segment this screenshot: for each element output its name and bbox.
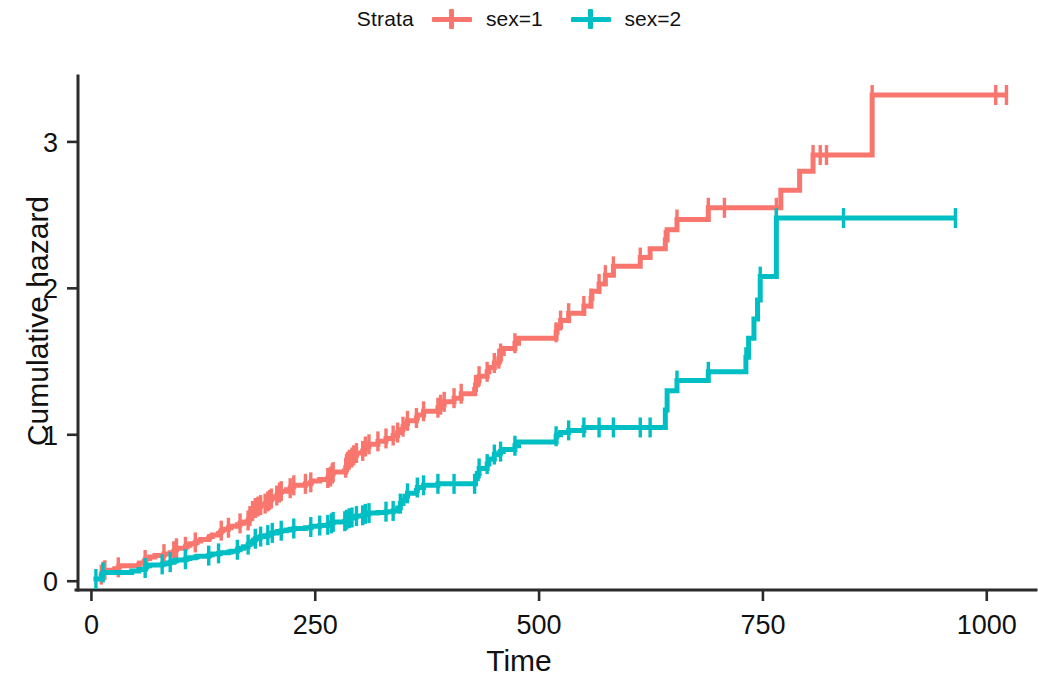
step-curve bbox=[101, 95, 1006, 581]
legend-entry-sex-2[interactable]: sex=2 bbox=[569, 6, 682, 32]
plot-area: Cumulative hazard Time 02505007501000012… bbox=[0, 36, 1038, 693]
y-tick-label: 0 bbox=[43, 567, 58, 597]
legend: Strata sex=1 sex=2 bbox=[0, 2, 1038, 36]
x-tick-label: 750 bbox=[740, 610, 785, 640]
legend-title: Strata bbox=[357, 7, 414, 31]
legend-label-sex-1: sex=1 bbox=[486, 7, 543, 31]
series-sex-1 bbox=[101, 85, 1006, 585]
chart-canvas: 025050075010000123 bbox=[0, 36, 1038, 693]
legend-key-sex-2-icon bbox=[569, 6, 613, 32]
chart-page: Strata sex=1 sex=2 Cumulative hazard Tim… bbox=[0, 0, 1038, 693]
y-tick-label: 1 bbox=[43, 421, 58, 451]
legend-label-sex-2: sex=2 bbox=[625, 7, 682, 31]
x-tick-label: 1000 bbox=[957, 610, 1017, 640]
x-tick-label: 0 bbox=[84, 610, 99, 640]
x-tick-label: 250 bbox=[293, 610, 338, 640]
y-tick-label: 2 bbox=[43, 274, 58, 304]
legend-key-sex-1-icon bbox=[430, 6, 474, 32]
x-tick-label: 500 bbox=[517, 610, 562, 640]
legend-entry-sex-1[interactable]: sex=1 bbox=[430, 6, 543, 32]
y-tick-label: 3 bbox=[43, 128, 58, 158]
